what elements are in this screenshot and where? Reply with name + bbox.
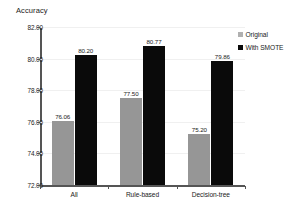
bar-decision-tree-original [188,134,210,185]
bar-value-label: 76.06 [52,113,74,120]
y-tick-label: 76.00 [28,118,44,125]
legend-swatch-icon-original [238,32,243,37]
y-tick-label: 74.00 [28,150,44,157]
legend-item-with-smote[interactable]: With SMOTE [238,44,283,51]
chart-title: Accuracy [16,6,48,15]
legend-label-with-smote: With SMOTE [246,44,284,51]
x-axis-line [40,185,245,187]
bar-all-original [52,121,74,185]
legend-label-original: Original [246,31,268,38]
y-tick-label: 78.00 [28,87,44,94]
x-tick-mark [177,186,178,189]
x-tick-label-decision-tree: Decision-tree [192,191,230,198]
y-tick-mark [37,122,40,123]
bar-rule-based-original [120,98,142,185]
x-tick-mark [245,186,246,189]
x-tick-mark [40,186,41,189]
legend-swatch-icon-with-smote [238,45,243,50]
gridline [40,27,245,28]
bar-value-label: 75.20 [188,126,210,133]
x-tick-mark [108,186,109,189]
bar-rule-based-with-smote [143,46,165,185]
bar-decision-tree-with-smote [211,61,233,185]
y-tick-label: 80.00 [28,55,44,62]
y-tick-mark [37,59,40,60]
y-tick-mark [37,27,40,28]
bar-value-label: 77.50 [120,90,142,97]
bar-value-label: 80.77 [143,38,165,45]
x-tick-label-rule-based: Rule-based [126,191,159,198]
y-tick-label: 82.00 [28,24,44,31]
legend-item-original[interactable]: Original [238,31,283,38]
plot-area: 76.0680.2077.5080.7775.2079.86 [40,27,245,185]
y-tick-mark [37,153,40,154]
y-tick-mark [37,90,40,91]
bar-all-with-smote [75,55,97,185]
bar-value-label: 80.20 [75,47,97,54]
x-tick-label-all: All [71,191,78,198]
accuracy-bar-chart: Accuracy 76.0680.2077.5080.7775.2079.86 … [0,0,295,206]
chart-legend: Original With SMOTE [238,31,283,57]
bar-value-label: 79.86 [211,53,233,60]
